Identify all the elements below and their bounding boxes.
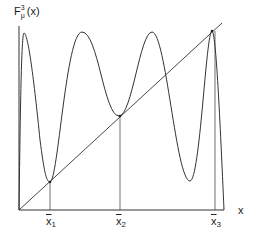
fixed-point-x3-marker [211, 30, 214, 33]
fixed-point-x1-marker [49, 181, 52, 184]
diagram-canvas [0, 0, 259, 235]
fixed-point-x2-marker [119, 115, 122, 118]
fixed-point-label-x2: x2 [116, 216, 126, 229]
y-label-subscript: μ [21, 12, 25, 19]
y-label-superscript: 3 [21, 4, 25, 11]
x-axis-label: x [238, 205, 244, 216]
y-label-argument: (x) [27, 5, 40, 17]
y-axis-label: F3μ(x) [14, 6, 40, 17]
y-label-base: F [14, 5, 21, 17]
fixed-point-label-x3: x3 [211, 216, 221, 229]
fixed-point-label-x1: x1 [46, 216, 56, 229]
